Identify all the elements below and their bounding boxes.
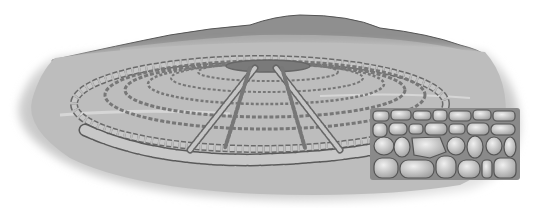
stone-wall-closeup [370, 108, 520, 180]
illustration-scene [0, 0, 536, 208]
stone-circle-illustration [0, 0, 536, 208]
